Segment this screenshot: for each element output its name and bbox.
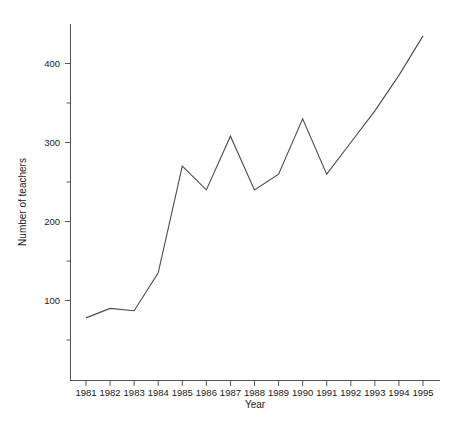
x-axis-ticks [86,381,423,386]
x-tick-label: 1981 [75,387,96,398]
y-tick-label: 200 [44,216,60,227]
x-axis-tick-labels: 1981198219831984198519861987198819891990… [75,387,433,398]
y-axis-title: Number of teachers [17,158,28,246]
y-axis-tick-labels: 400 300 200 100 [44,58,60,306]
x-tick-label: 1990 [292,387,313,398]
y-tick-label: 400 [44,58,60,69]
x-tick-label: 1995 [412,387,433,398]
y-tick-label: 100 [44,295,60,306]
x-tick-label: 1983 [124,387,145,398]
y-tick-label: 300 [44,137,60,148]
x-tick-label: 1986 [196,387,217,398]
x-tick-label: 1989 [268,387,289,398]
x-axis-title: Year [245,399,266,410]
x-tick-label: 1991 [316,387,337,398]
x-tick-label: 1982 [100,387,121,398]
data-series-line [86,36,423,318]
x-tick-label: 1984 [148,387,169,398]
chart-canvas: 400 300 200 100 Number of teachers 19811… [0,0,451,429]
x-tick-label: 1988 [244,387,265,398]
x-tick-label: 1993 [364,387,385,398]
x-tick-label: 1994 [388,387,409,398]
x-tick-label: 1985 [172,387,193,398]
x-tick-label: 1992 [340,387,361,398]
x-tick-label: 1987 [220,387,241,398]
line-chart-figure: 400 300 200 100 Number of teachers 19811… [0,0,451,429]
